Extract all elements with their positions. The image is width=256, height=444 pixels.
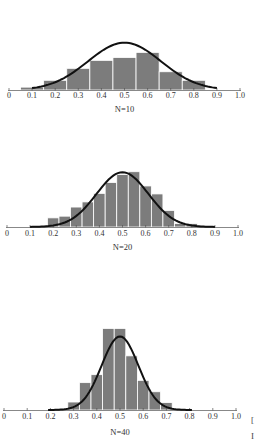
cropped-text-fragment: [ bbox=[251, 415, 254, 425]
histogram-bar bbox=[67, 68, 90, 90]
histogram-figure: 00.10.20.30.40.50.60.70.80.91.0 N=10 00.… bbox=[0, 0, 256, 444]
x-tick-label: 0.4 bbox=[96, 91, 106, 100]
x-tick-label: 0.3 bbox=[73, 91, 83, 100]
histogram-n40: 00.10.20.30.40.50.60.70.80.91.0 N=40 bbox=[2, 328, 241, 437]
histogram-bar bbox=[117, 175, 129, 227]
sample-size-label: N=40 bbox=[110, 427, 129, 437]
x-tick-label: 0.9 bbox=[212, 91, 222, 100]
x-tick-label: 1.0 bbox=[231, 412, 241, 421]
x-tick-label: 0.9 bbox=[208, 412, 218, 421]
x-tick-label: 0 bbox=[7, 91, 11, 100]
x-tick-label: 0.2 bbox=[45, 412, 55, 421]
x-tick-label: 0.5 bbox=[118, 229, 128, 238]
x-tick-label: 0.3 bbox=[71, 229, 81, 238]
x-tick-label: 0.9 bbox=[210, 229, 220, 238]
x-tick-label: 0.6 bbox=[141, 229, 151, 238]
x-tick-label: 0.1 bbox=[22, 412, 32, 421]
x-tick-label: 0.3 bbox=[69, 412, 79, 421]
x-tick-label: 0.8 bbox=[187, 229, 197, 238]
histogram-n20: 00.10.20.30.40.50.60.70.80.91.0 N=20 bbox=[5, 172, 243, 252]
histogram-n10: 00.10.20.30.40.50.60.70.80.91.0 N=10 bbox=[7, 43, 245, 114]
x-tick-label: 0.4 bbox=[94, 229, 104, 238]
sample-size-label: N=20 bbox=[113, 242, 132, 252]
histogram-bar bbox=[126, 356, 138, 410]
histogram-bars bbox=[47, 172, 197, 227]
histogram-bar bbox=[94, 193, 106, 227]
histogram-bars bbox=[68, 328, 172, 410]
histogram-bar bbox=[140, 186, 152, 227]
x-tick-label: 0.4 bbox=[92, 412, 102, 421]
histogram-bar bbox=[114, 328, 126, 410]
sample-size-label: N=10 bbox=[115, 104, 134, 114]
x-tick-label: 0.7 bbox=[164, 229, 174, 238]
x-tick-label: 0.8 bbox=[189, 91, 199, 100]
histogram-bar bbox=[105, 183, 117, 227]
histogram-bar bbox=[91, 375, 103, 410]
x-tick-label: 0.7 bbox=[161, 412, 171, 421]
x-tick-label: 0.1 bbox=[25, 229, 35, 238]
x-tick-label: 1.0 bbox=[235, 91, 245, 100]
x-tick-label: 0 bbox=[5, 229, 9, 238]
x-tick-label: 0.1 bbox=[27, 91, 37, 100]
x-tick-label: 0.2 bbox=[50, 91, 60, 100]
x-tick-label: 0.6 bbox=[138, 412, 148, 421]
x-tick-label: 1.0 bbox=[233, 229, 243, 238]
histogram-bar bbox=[113, 58, 136, 90]
x-tick-label: 0 bbox=[2, 412, 6, 421]
cropped-text-fragment: I bbox=[251, 431, 254, 441]
x-tick-label: 0.6 bbox=[143, 91, 153, 100]
x-tick-label: 0.5 bbox=[115, 412, 125, 421]
histogram-bar bbox=[103, 328, 115, 410]
histogram-bar bbox=[90, 60, 113, 90]
x-tick-label: 0.2 bbox=[48, 229, 58, 238]
x-tick-label: 0.7 bbox=[166, 91, 176, 100]
x-tick-label: 0.5 bbox=[120, 91, 130, 100]
x-tick-label: 0.8 bbox=[185, 412, 195, 421]
